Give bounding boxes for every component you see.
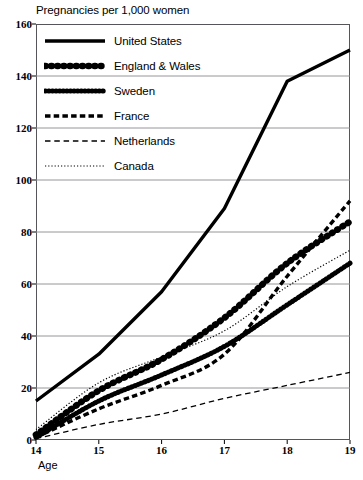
y-tick-label: 60	[0, 278, 32, 290]
y-tick-label: 140	[0, 70, 32, 82]
chart-figure: Pregnancies per 1,000 women 020406080100…	[0, 0, 363, 480]
legend-label: United States	[106, 35, 182, 47]
legend-label: England & Wales	[106, 60, 200, 72]
series-line-england-wales	[36, 222, 350, 435]
series-line-netherlands	[36, 372, 350, 438]
x-tick-label: 18	[282, 444, 293, 456]
y-tick-label: 120	[0, 122, 32, 134]
x-tick-label: 16	[156, 444, 167, 456]
legend-label: Canada	[106, 160, 154, 172]
legend-swatch-icon	[44, 109, 106, 123]
legend-item-england-wales[interactable]: England & Wales	[44, 53, 219, 78]
legend-swatch-icon	[44, 34, 106, 48]
legend-item-sweden[interactable]: Sweden	[44, 78, 219, 103]
x-tick-label: 14	[31, 444, 42, 456]
legend-item-netherlands[interactable]: Netherlands	[44, 128, 219, 153]
x-tick-label: 17	[219, 444, 230, 456]
x-axis-label: Age	[38, 459, 58, 471]
legend-label: France	[106, 110, 149, 122]
y-tick-label: 40	[0, 330, 32, 342]
legend-swatch-icon	[44, 59, 106, 73]
chart-legend: United StatesEngland & WalesSwedenFrance…	[44, 28, 219, 178]
legend-item-france[interactable]: France	[44, 103, 219, 128]
legend-swatch-icon	[44, 84, 106, 98]
series-line-sweden	[36, 263, 350, 437]
legend-swatch-icon	[44, 134, 106, 148]
x-tick-label: 15	[93, 444, 104, 456]
chart-title: Pregnancies per 1,000 women	[36, 4, 189, 16]
y-tick-label: 0	[0, 434, 32, 446]
legend-label: Sweden	[106, 85, 155, 97]
legend-item-united-states[interactable]: United States	[44, 28, 219, 53]
legend-label: Netherlands	[106, 135, 175, 147]
y-tick-label: 20	[0, 382, 32, 394]
legend-swatch-icon	[44, 159, 106, 173]
y-tick-label: 100	[0, 174, 32, 186]
legend-item-canada[interactable]: Canada	[44, 153, 219, 178]
x-tick-label: 19	[345, 444, 356, 456]
y-tick-label: 160	[0, 18, 32, 30]
y-tick-label: 80	[0, 226, 32, 238]
